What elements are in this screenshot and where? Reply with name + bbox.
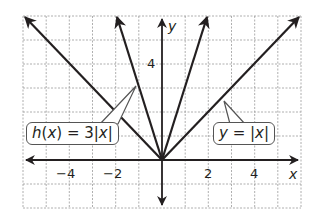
coordinate-plane <box>0 0 316 215</box>
callout-h-fn: h <box>32 124 42 142</box>
x-axis-label: x <box>289 167 297 181</box>
callout-pointer-y <box>224 101 245 124</box>
callout-y-var: y <box>219 124 228 142</box>
x-tick-neg2: −2 <box>103 167 122 180</box>
callout-y-var2: x <box>255 124 264 142</box>
y-axis-label: y <box>168 19 176 33</box>
y-tick-4: 4 <box>147 57 155 70</box>
callout-y-abs-x: y = |x| <box>213 122 275 145</box>
callout-h-of-x: h(x) = 3|x| <box>26 122 119 145</box>
callout-pointer-h <box>100 86 136 124</box>
callout-h-var2: x <box>99 124 108 142</box>
callout-h-rest: = 3| <box>62 124 99 142</box>
callout-y-rest: = | <box>228 124 255 142</box>
x-tick-4: 4 <box>250 167 258 180</box>
callout-h-var: x <box>47 124 56 142</box>
x-tick-neg4: −4 <box>56 167 75 180</box>
x-tick-2: 2 <box>204 167 212 180</box>
